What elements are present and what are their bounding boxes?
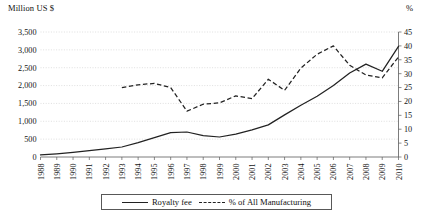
x-axis-tick-label: 2001 xyxy=(248,164,257,180)
y-axis-right-tick-label: 35 xyxy=(404,56,412,65)
y-axis-left-tick-label: 1,000 xyxy=(18,117,36,126)
y-axis-right-tick-label: 5 xyxy=(404,139,408,148)
y-axis-right-tick-label: 10 xyxy=(404,125,412,134)
x-axis-tick-label: 1993 xyxy=(118,164,127,180)
legend-item-pct-all-manufacturing: % of All Manufacturing xyxy=(199,197,311,207)
series-line-of-all-manufacturing xyxy=(122,46,399,111)
data-series xyxy=(41,46,399,155)
x-axis-ticks: 1988198919901991199219931994199519961997… xyxy=(37,157,404,180)
axis-lines xyxy=(41,32,399,157)
y-axis-left-tick-label: 2,000 xyxy=(18,81,36,90)
x-axis-tick-label: 2007 xyxy=(346,164,355,180)
y-axis-right-tick-label: 15 xyxy=(404,111,412,120)
x-axis-tick-label: 1988 xyxy=(37,164,46,180)
y-axis-right-tick-label: 30 xyxy=(404,70,412,79)
x-axis-tick-label: 2008 xyxy=(362,164,371,180)
y-axis-right-tick-label: 0 xyxy=(404,153,408,162)
y-axis-right-tick-label: 25 xyxy=(404,83,412,92)
x-axis-tick-label: 1994 xyxy=(134,164,143,180)
x-axis-tick-label: 2004 xyxy=(297,164,306,180)
y-axis-left-title: Million US $ xyxy=(8,3,54,13)
x-axis-tick-label: 1998 xyxy=(199,164,208,180)
x-axis-tick-label: 1995 xyxy=(150,164,159,180)
y-axis-right-tick-label: 20 xyxy=(404,97,412,106)
x-axis-tick-label: 2002 xyxy=(264,164,273,180)
royalty-fee-line-chart: Million US $ % 05001,0001,5002,0002,5003… xyxy=(0,0,428,219)
plot-area: 05001,0001,5002,0002,5003,0003,500 05101… xyxy=(0,0,428,219)
y-axis-right-ticks: 051015202530354045 xyxy=(399,28,413,162)
x-axis-tick-label: 2010 xyxy=(395,164,404,180)
series-line-royalty-fee xyxy=(41,46,399,155)
legend-swatch-solid-icon xyxy=(122,202,148,203)
x-axis-tick-label: 2005 xyxy=(313,164,322,180)
gridlines xyxy=(41,32,399,139)
y-axis-left-tick-label: 0 xyxy=(32,153,36,162)
y-axis-right-tick-label: 40 xyxy=(404,42,412,51)
y-axis-left-tick-label: 500 xyxy=(24,135,36,144)
x-axis-tick-label: 1992 xyxy=(102,164,111,180)
x-axis-tick-label: 2009 xyxy=(378,164,387,180)
x-axis-tick-label: 1990 xyxy=(69,164,78,180)
legend-swatch-dashed-icon xyxy=(199,202,225,203)
x-axis-tick-label: 1991 xyxy=(85,164,94,180)
y-axis-left-tick-label: 3,000 xyxy=(18,46,36,55)
y-axis-left-ticks: 05001,0001,5002,0002,5003,0003,500 xyxy=(18,28,36,162)
y-axis-right-title: % xyxy=(406,3,413,13)
x-axis-tick-label: 1996 xyxy=(167,164,176,180)
legend-label-pct-all-manufacturing: % of All Manufacturing xyxy=(229,197,311,207)
x-axis-tick-label: 2000 xyxy=(232,164,241,180)
x-axis-tick-label: 1999 xyxy=(216,164,225,180)
y-axis-right-tick-label: 45 xyxy=(404,28,412,37)
x-axis-tick-label: 1997 xyxy=(183,164,192,180)
y-axis-left-tick-label: 3,500 xyxy=(18,28,36,37)
x-axis-tick-label: 1989 xyxy=(53,164,62,180)
x-axis-tick-label: 2003 xyxy=(281,164,290,180)
legend-label-royalty-fee: Royalty fee xyxy=(152,197,192,207)
legend-item-royalty-fee: Royalty fee xyxy=(122,197,192,207)
y-axis-left-tick-label: 1,500 xyxy=(18,99,36,108)
x-axis-tick-label: 2006 xyxy=(329,164,338,180)
y-axis-left-tick-label: 2,500 xyxy=(18,64,36,73)
chart-legend: Royalty fee % of All Manufacturing xyxy=(101,194,332,210)
